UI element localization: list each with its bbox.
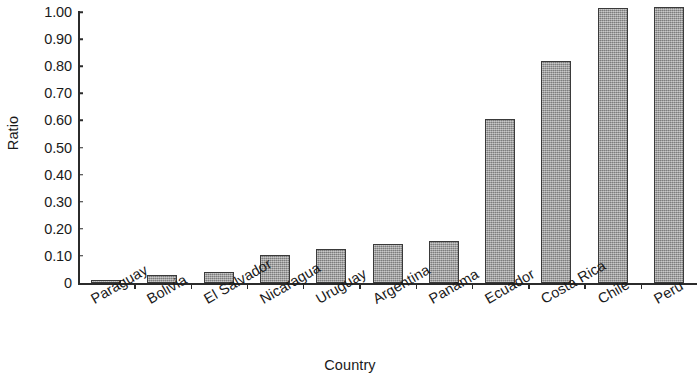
y-tick-label: 0.80 — [44, 58, 72, 74]
y-tick-label: 0.60 — [44, 112, 72, 128]
y-tick-label: 0.50 — [44, 140, 72, 156]
y-tick-label: 0 — [64, 275, 72, 291]
y-tick-label: 0.30 — [44, 194, 72, 210]
y-tick-label: 0.90 — [44, 31, 72, 47]
y-tick-label: 1.00 — [44, 4, 72, 20]
y-tick-label: 0.70 — [44, 85, 72, 101]
y-tick-label: 0.40 — [44, 167, 72, 183]
y-tick-label: 0.10 — [44, 248, 72, 264]
bar-chart: Ratio 00.100.200.300.400.500.600.700.800… — [0, 0, 700, 385]
x-axis-title: Country — [0, 357, 700, 373]
bar-series — [78, 12, 697, 283]
y-axis-title: Ratio — [5, 103, 21, 163]
y-tick-label: 0.20 — [44, 221, 72, 237]
x-tick-mark — [641, 283, 642, 289]
bar — [485, 119, 515, 283]
bar — [598, 8, 628, 283]
bar — [654, 7, 684, 283]
bar — [541, 61, 571, 283]
x-tick-mark — [191, 283, 192, 289]
plot-area: 00.100.200.300.400.500.600.700.800.901.0… — [78, 12, 697, 283]
